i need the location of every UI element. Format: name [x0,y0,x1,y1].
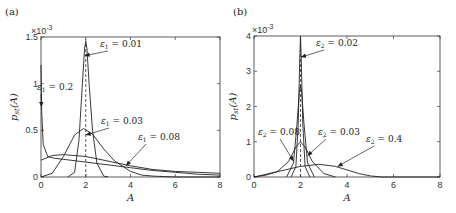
x-tick-label: 0 [251,180,256,190]
y-multiplier: ×10-3 [252,23,274,35]
chart-panel-a: 0246800.511.5×10-3(a)Apst(A)ε1 = 0.01ε1 … [5,6,223,203]
x-tick-label: 8 [437,180,442,190]
plot-frame [254,36,440,177]
annotation-label: ε2 = 0.02 [316,38,358,49]
annotation-label: ε2 = 0.08 [258,127,300,138]
y-tick-label: 1 [246,137,251,147]
annotation-label: ε1 = 0.08 [138,132,180,143]
y-tick-label: 0 [33,172,38,182]
series-line [41,155,220,174]
plot-frame [41,37,220,177]
panel-label: (a) [5,6,19,17]
y-axis-label: pst(A) [8,93,21,121]
chart-panel-b: 0246801234×10-3(b)Apst(A)ε2 = 0.02ε2 = 0… [227,6,443,203]
y-axis-label: pst(A) [227,92,240,120]
series-line [41,129,220,178]
annotation-label: ε2 = 0.03 [318,127,360,138]
annotation-label: ε1 = 0.03 [101,116,143,127]
x-tick-label: 6 [173,180,178,190]
annotation-label: ε2 = 0.4 [366,134,403,145]
y-tick-label: 2 [246,102,251,112]
y-tick-label: 0 [246,172,251,182]
x-tick-label: 0 [38,180,43,190]
arrowhead-icon [301,54,306,58]
panel-label: (b) [233,6,247,17]
x-axis-label: A [342,192,350,203]
x-tick-label: 2 [298,180,303,190]
x-tick-label: 8 [217,180,222,190]
x-tick-label: 4 [128,180,133,190]
x-axis-label: A [126,192,134,203]
annotation-arrow [338,146,374,166]
y-tick-label: 3 [246,66,251,76]
annotation-label: ε1 = 0.01 [100,39,142,50]
x-tick-label: 4 [344,180,349,190]
arrowhead-icon [338,162,343,166]
x-tick-label: 6 [391,180,396,190]
arrowhead-icon [39,102,43,107]
y-tick-label: 0.5 [25,125,38,135]
y-tick-label: 4 [246,31,251,41]
x-tick-label: 2 [83,180,88,190]
figure: 0246800.511.5×10-3(a)Apst(A)ε1 = 0.01ε1 … [0,0,456,213]
y-multiplier: ×10-3 [31,24,53,36]
